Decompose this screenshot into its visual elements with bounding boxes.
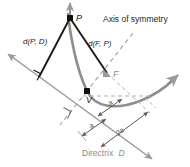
label-directrix: Directrix D [82, 148, 125, 158]
label-segment-a-lower: a [87, 121, 96, 131]
point-marker-v [84, 88, 90, 94]
segment-p-to-directrix [39, 18, 70, 77]
diagram-canvas: P F V Axis of symmetry d(P, D) d(F, P) a… [0, 0, 190, 167]
label-point-p: P [76, 13, 82, 23]
point-marker-f [103, 69, 111, 77]
label-directrix-word: Directrix [82, 148, 114, 158]
point-marker-p [67, 15, 73, 21]
dimension-arrow-2a [101, 112, 148, 147]
parabola-right-arrow [168, 75, 178, 84]
dashed-tick-upper [145, 98, 156, 108]
label-distance-focus-p: d(F, P) [88, 39, 112, 48]
label-point-f: F [113, 69, 119, 79]
label-vertex-v: V [86, 95, 93, 105]
label-axis-of-symmetry: Axis of symmetry [103, 14, 168, 24]
parabola-curve [68, 14, 174, 106]
label-distance-p-directrix: d(P, D) [23, 37, 48, 46]
dimension-tick-left [78, 131, 86, 141]
parabola-diagram-figure: P F V Axis of symmetry d(P, D) d(F, P) a… [0, 0, 190, 167]
label-directrix-symbol: D [119, 148, 125, 158]
